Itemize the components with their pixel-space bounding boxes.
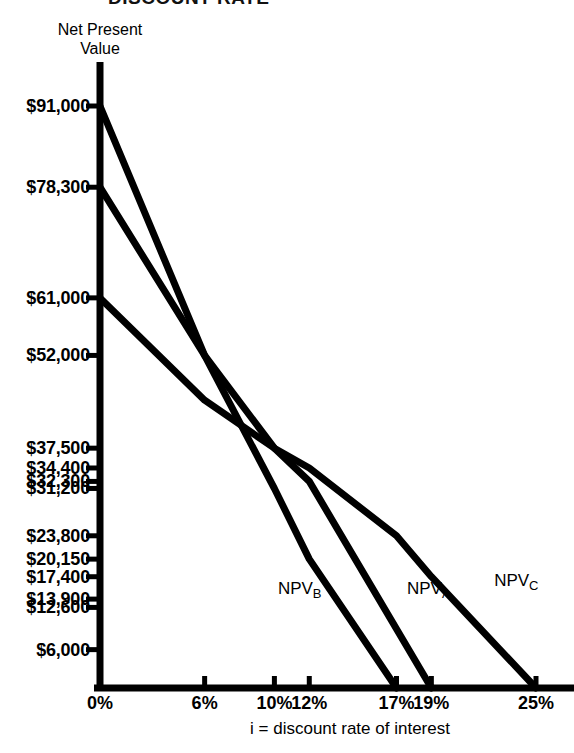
curve-label-c: NPVC — [494, 571, 538, 593]
y-tick-label: $61,000 — [26, 287, 90, 308]
y-tick-label: $12,600 — [26, 597, 90, 618]
curve-label-subscript: C — [529, 578, 538, 593]
curve-label-subscript: A — [442, 586, 451, 601]
x-axis-title: i = discount rate of interest — [150, 719, 550, 738]
y-tick-label: $23,800 — [26, 525, 90, 546]
x-tick-label: 12% — [291, 693, 327, 714]
y-tick-label: $91,000 — [26, 96, 90, 117]
npv-discount-rate-chart: DISCOUNT RATE Net Present Value $91,000$… — [0, 0, 574, 753]
curve-label-subscript: B — [313, 586, 322, 601]
curve-label-base: NPV — [407, 579, 442, 598]
curve-label-a: NPVA — [407, 579, 451, 601]
y-tick-label: $31,200 — [26, 478, 90, 499]
x-tick-label: 10% — [256, 693, 292, 714]
x-tick-label: 17% — [378, 693, 414, 714]
y-tick-label: $78,300 — [26, 177, 90, 198]
y-tick-label: $37,500 — [26, 438, 90, 459]
y-tick-label: $17,400 — [26, 566, 90, 587]
y-tick-label: $52,000 — [26, 345, 90, 366]
curve-label-b: NPVB — [278, 579, 322, 601]
curve-label-base: NPV — [494, 571, 529, 590]
x-tick-label: 19% — [413, 693, 449, 714]
curve-npv-a — [100, 187, 431, 688]
curve-label-base: NPV — [278, 579, 313, 598]
x-tick-label: 25% — [518, 693, 554, 714]
x-tick-label: 0% — [87, 693, 113, 714]
x-tick-label: 6% — [192, 693, 218, 714]
curve-npv-b — [100, 106, 397, 688]
y-tick-label: $6,000 — [36, 639, 90, 660]
